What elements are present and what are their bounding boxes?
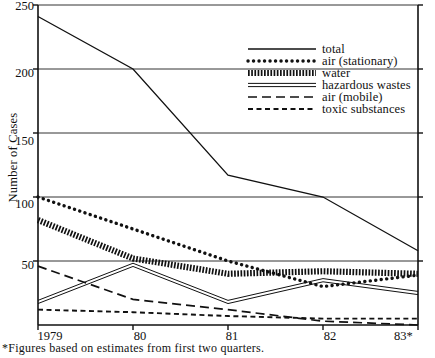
series-water bbox=[38, 220, 418, 274]
chart-footnote: *Figures based on estimates from first t… bbox=[2, 342, 264, 355]
chart-figure: Number of Cases 250 200 150 100 50 1979 … bbox=[0, 0, 435, 358]
series-hazardous-wastes bbox=[38, 263, 418, 303]
y-tick-label-250: 250 bbox=[0, 0, 34, 12]
axes bbox=[38, 5, 418, 325]
legend-swatches bbox=[248, 49, 316, 109]
legend-swatch-hazardous-wastes bbox=[248, 83, 316, 86]
x-tick-label-83: 83* bbox=[394, 330, 434, 342]
y-tick-label-200: 200 bbox=[0, 67, 34, 79]
x-tick-label-82: 82 bbox=[302, 330, 358, 342]
series-path bbox=[38, 220, 418, 274]
series-path bbox=[38, 310, 418, 319]
y-tick-label-150: 150 bbox=[0, 135, 34, 147]
legend-label-toxic-substances: toxic substances bbox=[322, 103, 405, 115]
series-toxic-substances bbox=[38, 310, 418, 319]
y-tick-label-50: 50 bbox=[0, 259, 34, 271]
y-tick-label-100: 100 bbox=[0, 198, 34, 210]
gridlines bbox=[38, 5, 418, 261]
